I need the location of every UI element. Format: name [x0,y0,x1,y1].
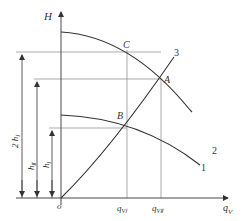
dimension-arrows [22,55,52,198]
curve-3-label: 3 [174,47,179,58]
curve-2-label: 2 [212,145,217,156]
dim-label-h2: hⅡ [26,162,37,171]
curve-1 [61,115,200,165]
curves [61,32,200,198]
origin-label: o [57,201,62,211]
x-axis-label: qV [223,202,233,216]
dim-label-h1: hⅠ [41,161,52,169]
curve-1-label: 1 [201,162,206,173]
tick-qv1: qVⅠ [117,203,128,214]
y-axis-label: H [43,10,53,22]
axes [16,12,228,205]
guide-lines [16,50,161,198]
point-b-label: B [117,110,123,121]
pump-curve-diagram: H o qV C A B 3 2 1 qVⅠ qVⅡ 2 hⅠ hⅡ hⅠ [0,0,244,221]
tick-qv2: qVⅡ [152,203,164,214]
point-a-label: A [163,74,171,85]
point-c-label: C [123,39,130,50]
curve-3 [61,57,174,198]
dim-label-2h1: 2 hⅠ [10,134,21,148]
